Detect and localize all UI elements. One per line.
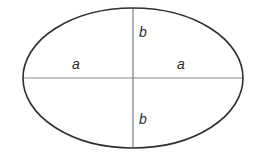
ellipse-diagram-canvas <box>0 0 262 156</box>
label-semi-axis-a-left: a <box>72 57 80 71</box>
label-semi-axis-b-bottom: b <box>139 112 147 126</box>
label-semi-axis-a-right: a <box>177 57 185 71</box>
label-semi-axis-b-top: b <box>139 25 147 39</box>
ellipse-diagram: a a b b <box>0 0 262 156</box>
